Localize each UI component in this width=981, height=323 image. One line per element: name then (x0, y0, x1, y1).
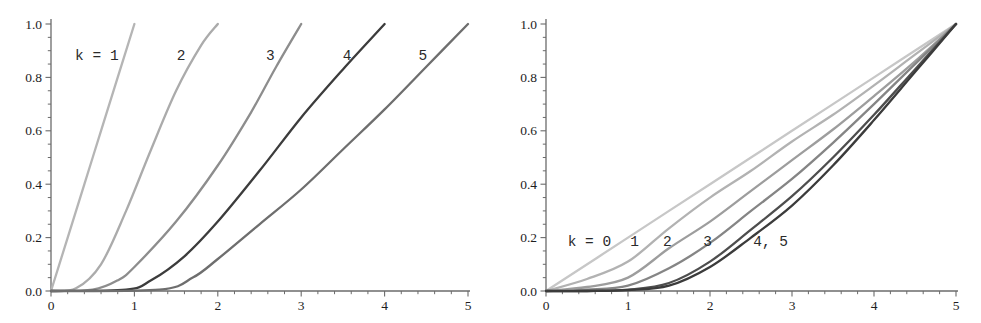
y-tick-label: 0.4 (25, 177, 42, 192)
curve-k=0 (546, 24, 956, 291)
curve-label: 5 (419, 48, 428, 64)
curve-k=1 (51, 24, 134, 291)
x-tick-label: 5 (465, 298, 472, 313)
y-tick-label: 0.0 (520, 284, 537, 299)
left-plot-panel: 0123450.00.20.40.60.81.0k = 12345 (0, 0, 490, 323)
curve-label: 1 (630, 234, 639, 250)
x-tick-label: 4 (871, 298, 878, 313)
y-tick-label: 0.8 (520, 70, 537, 85)
curve-k=2 (51, 24, 218, 291)
y-tick-label: 1.0 (520, 17, 537, 32)
curve-label: 4 (343, 48, 352, 64)
y-tick-label: 0.4 (520, 177, 537, 192)
two-panel-line-chart-figure: 0123450.00.20.40.60.81.0k = 12345 012345… (0, 0, 981, 323)
right-plot-svg: 0123450.00.20.40.60.81.0k = 01234, 5 (490, 0, 981, 323)
curve-label: 4, 5 (753, 234, 788, 250)
curve-k=5 (51, 24, 468, 291)
x-tick-label: 0 (48, 298, 55, 313)
curve-label: 3 (266, 48, 275, 64)
curve-label: 2 (663, 234, 672, 250)
x-tick-label: 4 (381, 298, 388, 313)
x-tick-label: 2 (214, 298, 221, 313)
curve-label: 3 (703, 234, 712, 250)
x-tick-label: 1 (625, 298, 632, 313)
x-tick-label: 1 (131, 298, 138, 313)
x-tick-label: 5 (953, 298, 960, 313)
x-tick-label: 0 (543, 298, 550, 313)
y-tick-label: 0.2 (25, 230, 42, 245)
curve-label: k = 0 (568, 234, 612, 250)
curve-label: 2 (177, 48, 186, 64)
y-tick-label: 0.2 (520, 230, 537, 245)
y-tick-label: 0.8 (25, 70, 42, 85)
curve-label: k = 1 (75, 48, 119, 64)
y-tick-label: 0.6 (520, 123, 537, 138)
right-plot-panel: 0123450.00.20.40.60.81.0k = 01234, 5 (490, 0, 981, 323)
left-plot-svg: 0123450.00.20.40.60.81.0k = 12345 (0, 0, 490, 323)
y-tick-label: 0.6 (25, 123, 42, 138)
x-tick-label: 3 (298, 298, 305, 313)
y-tick-label: 0.0 (25, 284, 42, 299)
curve-k=3 (51, 24, 301, 291)
x-tick-label: 3 (789, 298, 796, 313)
y-tick-label: 1.0 (25, 17, 42, 32)
x-tick-label: 2 (707, 298, 714, 313)
